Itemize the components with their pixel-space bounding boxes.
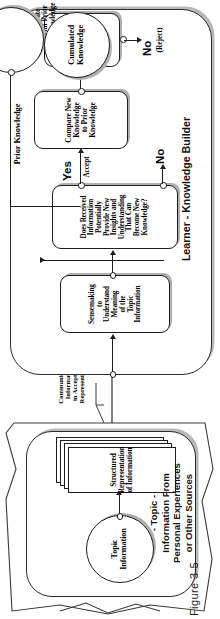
edge-prior-knowledge-down xyxy=(10,206,80,207)
learner-lane-label: Learner - Knowledge Builder xyxy=(180,59,193,319)
edge-no-loop-down xyxy=(40,260,164,261)
edge-into-sensemaking-arrowhead xyxy=(110,334,116,339)
edge-decision1-no-label: No xyxy=(155,149,167,164)
node-does-received-information-label: Does Received Information Potentially Pr… xyxy=(81,195,150,240)
edge-decision1-yes-label: Yes xyxy=(62,161,74,181)
node-does-received-information[interactable]: Does Received Information Potentially Pr… xyxy=(52,185,178,249)
edge-no-loop-arrowhead xyxy=(40,258,45,264)
edge-sensemaking-to-decision1-arrowhead xyxy=(110,250,116,255)
edge-decision1-accept-label: Accept xyxy=(84,149,91,185)
node-sensemaking[interactable]: Sensemaking to Understand Meaning of the… xyxy=(60,275,170,333)
edge-acceptable-no xyxy=(124,40,138,41)
node-structured-representation-label: Structured Representation of Information xyxy=(110,447,134,494)
edge-acceptable-reject-label: (Reject) xyxy=(156,17,164,63)
node-topic-information-label: Topic Information xyxy=(111,528,128,570)
edge-compare-to-acceptable-junction xyxy=(78,88,85,95)
edge-decision1-no xyxy=(162,168,163,184)
edge-acceptable-no-label: No xyxy=(142,41,154,56)
edge-compare-to-acceptable-arrowhead xyxy=(78,68,84,73)
rotated-figure-frame: Topic Information Structured Representat… xyxy=(0,0,220,619)
edge-decision1-no-arrowhead xyxy=(160,164,166,169)
flowchart-canvas: Topic Information Structured Representat… xyxy=(0,0,220,619)
figure-caption: Figure 3-5 xyxy=(188,546,200,616)
edge-decision1-yes xyxy=(80,152,81,184)
node-is-new-knowledge-acceptable-label: Is New Knowledge Acceptable? xyxy=(70,21,94,60)
node-compare-new-knowledge-label: Compare New Knowledge to Prior Knowledge xyxy=(65,97,97,142)
node-sensemaking-label: Sensemaking to Understand Meaning of the… xyxy=(88,284,142,324)
edge-prior-knowledge-label: Prior Knowledge xyxy=(14,79,23,189)
node-compare-new-knowledge[interactable]: Compare New Knowledge to Prior Knowledge xyxy=(34,91,128,149)
node-topic-information[interactable]: Topic Information xyxy=(86,515,154,583)
edge-into-sensemaking xyxy=(112,337,113,375)
edge-prior-knowledge-top xyxy=(10,75,11,207)
